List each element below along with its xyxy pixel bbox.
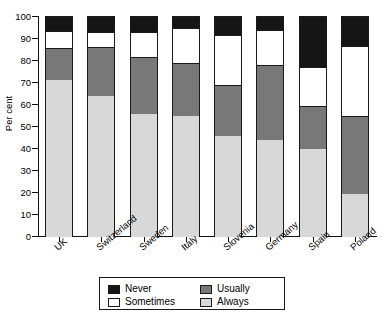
stacked-bar-chart: Per cent 0102030405060708090100 UKSwitze… [0, 0, 385, 319]
bar-segment-never [300, 17, 326, 67]
y-axis-tick-labels: 0102030405060708090100 [0, 0, 31, 319]
y-tick-label: 50 [0, 122, 31, 132]
y-tick-label: 90 [0, 34, 31, 44]
y-tick-label: 40 [0, 144, 31, 154]
y-tick-label: 20 [0, 188, 31, 198]
bar-segment-never [257, 17, 283, 30]
y-tick-label: 80 [0, 56, 31, 66]
legend-item-usually[interactable]: Usually [200, 284, 250, 294]
y-tick-label: 60 [0, 100, 31, 110]
bar-germany [256, 16, 284, 236]
legend-swatch-never-icon [108, 285, 120, 294]
bar-segment-sometimes [173, 28, 199, 63]
bar-segment-usually [300, 106, 326, 149]
bar-segment-always [257, 140, 283, 237]
bar-switzerland [87, 16, 115, 236]
bar-segment-never [342, 17, 368, 46]
bar-segment-always [173, 116, 199, 237]
bar-sweden [130, 16, 158, 236]
bar-segment-usually [257, 65, 283, 140]
bar-spain [299, 16, 327, 236]
legend-item-never[interactable]: Never [108, 284, 152, 294]
y-tick-label: 70 [0, 78, 31, 88]
y-tick-label: 10 [0, 210, 31, 220]
bar-segment-never [215, 17, 241, 35]
bar-uk [45, 16, 73, 236]
bar-segment-usually [131, 57, 157, 114]
bar-segment-sometimes [300, 67, 326, 107]
bar-segment-never [46, 17, 72, 31]
legend-swatch-sometimes-icon [108, 298, 120, 307]
legend-swatch-always-icon [200, 298, 212, 307]
y-tick [32, 236, 38, 237]
y-tick-label: 30 [0, 166, 31, 176]
bar-italy [172, 16, 200, 236]
y-tick-label: 0 [0, 232, 31, 242]
bar-segment-sometimes [342, 46, 368, 116]
bar-segment-sometimes [257, 30, 283, 65]
bar-segment-usually [215, 85, 241, 136]
bar-segment-always [46, 80, 72, 237]
legend-label-never: Never [125, 284, 152, 294]
bar-segment-always [88, 96, 114, 237]
bar-segment-never [131, 17, 157, 32]
legend: Never Sometimes Usually Always [99, 277, 285, 310]
bar-segment-usually [88, 47, 114, 97]
plot-area [38, 16, 376, 236]
bar-poland [341, 16, 369, 236]
legend-swatch-usually-icon [200, 285, 212, 294]
bar-segment-always [215, 136, 241, 237]
bar-segment-never [88, 17, 114, 32]
legend-label-always: Always [217, 297, 249, 307]
y-tick-label: 100 [0, 12, 31, 22]
bar-segment-sometimes [46, 31, 72, 48]
bar-segment-sometimes [88, 32, 114, 46]
bar-segment-never [173, 17, 199, 28]
bar-segment-usually [342, 116, 368, 194]
bar-segment-always [300, 149, 326, 237]
legend-item-always[interactable]: Always [200, 297, 249, 307]
bar-segment-usually [46, 48, 72, 80]
legend-label-usually: Usually [217, 284, 250, 294]
legend-item-sometimes[interactable]: Sometimes [108, 297, 175, 307]
bar-segment-sometimes [215, 35, 241, 86]
bar-slovenia [214, 16, 242, 236]
bar-segment-sometimes [131, 32, 157, 56]
bar-segment-usually [173, 63, 199, 116]
legend-label-sometimes: Sometimes [125, 297, 175, 307]
x-tick-label: UK [52, 236, 69, 253]
